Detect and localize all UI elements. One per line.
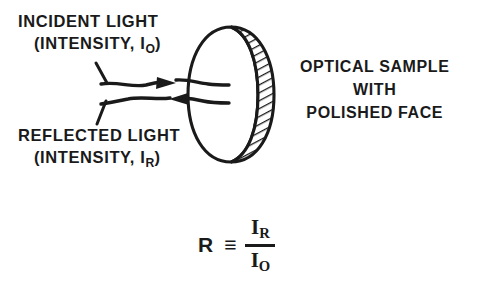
sample-label-line3: POLISHED FACE	[300, 101, 449, 124]
formula-numerator-subscript: R	[259, 225, 270, 241]
incident-ray-arrowhead	[156, 77, 176, 89]
reflected-light-line2: (INTENSITY, IR)	[18, 147, 180, 171]
incident-light-line1: INCIDENT LIGHT	[18, 12, 158, 30]
optical-reflectance-figure: INCIDENT LIGHT (INTENSITY, IO) REFLECTED…	[0, 0, 486, 292]
incident-intensity-subscript: O	[145, 42, 155, 56]
reflectance-formula: R ≡ IR IO	[198, 216, 275, 275]
incident-light-line2: (INTENSITY, IO)	[18, 33, 161, 57]
optical-sample-disc	[188, 20, 285, 170]
reflected-ray-segment-left	[101, 98, 170, 104]
formula-fraction-bar	[245, 244, 275, 247]
reflected-light-label: REFLECTED LIGHT (INTENSITY, IR)	[18, 125, 180, 171]
sample-front-face	[188, 27, 258, 162]
formula-fraction: IR IO	[245, 216, 275, 275]
reflected-light-line1: REFLECTED LIGHT	[18, 126, 180, 144]
incident-label-leader	[96, 63, 107, 83]
optical-sample-label: OPTICAL SAMPLE WITH POLISHED FACE	[300, 55, 449, 125]
formula-denominator: IO	[248, 249, 274, 275]
formula-symbol-R: R	[198, 233, 213, 257]
incident-ray-segment-left	[101, 82, 162, 86]
reflected-ray-arrowhead	[169, 93, 189, 105]
formula-numerator: IR	[248, 216, 273, 242]
formula-denominator-subscript: O	[259, 258, 270, 274]
sample-label-line1: OPTICAL SAMPLE	[300, 55, 449, 78]
incident-light-label: INCIDENT LIGHT (INTENSITY, IO)	[18, 11, 161, 57]
sample-label-line2: WITH	[300, 78, 449, 101]
formula-equivalence-sign: ≡	[224, 233, 236, 257]
